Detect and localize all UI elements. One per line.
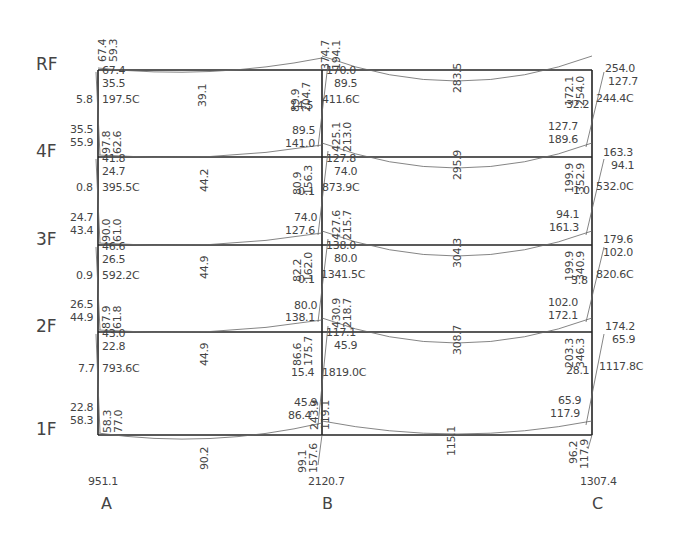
moment-value: 197.5C <box>102 94 139 105</box>
moment-value: 138.0 <box>326 240 356 251</box>
moment-value: 141.0 <box>285 138 315 149</box>
moment-value: 80.0 <box>294 300 317 311</box>
moment-value: 127.8 <box>326 153 356 164</box>
moment-value: 0.1 <box>298 186 315 197</box>
moment-value: 254.0 <box>605 63 635 74</box>
moment-value: 26.5 <box>102 254 125 265</box>
moment-value: 175.7 <box>303 336 314 366</box>
moment-value: 94.1 <box>556 209 579 220</box>
moment-value: 44.9 <box>199 343 210 366</box>
frame-moment-diagram: 67.459.367.435.55.8197.5C39.189.9204.737… <box>0 0 681 539</box>
moment-value: 35.5 <box>70 124 93 135</box>
moment-value: 820.6C <box>596 269 633 280</box>
moment-value: 161.3 <box>549 222 579 233</box>
moment-value: 102.0 <box>548 297 578 308</box>
moment-value: 119.1 <box>320 400 331 430</box>
moment-value: 127.6 <box>285 225 315 236</box>
moment-value: 7.7 <box>78 363 95 374</box>
moment-value: 58.3 <box>70 415 93 426</box>
moment-value: 59.3 <box>108 39 119 62</box>
column-axis-B: B <box>322 496 333 512</box>
moment-value: 41.8 <box>102 153 125 164</box>
column-moment-line <box>586 247 604 322</box>
moment-value: 295.9 <box>452 150 463 180</box>
moment-value: 46.6 <box>102 241 125 252</box>
column-axis-A: A <box>101 496 112 512</box>
moment-value: 43.4 <box>70 225 93 236</box>
moment-value: 873.9C <box>322 182 359 193</box>
moment-value: 115.1 <box>446 426 457 456</box>
moment-value: 61.0 <box>112 219 123 242</box>
moment-value: 411.6C <box>322 94 359 105</box>
moment-value: 74.0 <box>334 166 357 177</box>
moment-value: 89.5 <box>334 78 357 89</box>
column-moment-line <box>586 159 604 235</box>
moment-value: 3.8 <box>571 275 588 286</box>
moment-value: 94.1 <box>611 160 634 171</box>
moment-value: 15.4 <box>291 367 314 378</box>
moment-value: 74.0 <box>294 212 317 223</box>
moment-value: 0.8 <box>76 182 93 193</box>
base-reaction-B: 2120.7 <box>308 476 345 487</box>
moment-value: 22.8 <box>70 402 93 413</box>
moment-value: 89.5 <box>292 125 315 136</box>
moment-value: 117.1 <box>326 327 356 338</box>
moment-value: 45.9 <box>334 340 357 351</box>
moment-value: 117.9 <box>550 408 580 419</box>
moment-value: 32.2 <box>566 99 589 110</box>
moment-value: 1.0 <box>573 185 590 196</box>
moment-value: 24.7 <box>102 166 125 177</box>
moment-value: 5.8 <box>76 94 93 105</box>
floor-label-2F: 2F <box>36 318 57 335</box>
moment-value: 244.4C <box>596 93 633 104</box>
moment-value: 24.7 <box>70 212 93 223</box>
moment-value: 215.7 <box>342 210 353 240</box>
moment-value: 55.9 <box>70 137 93 148</box>
moment-value: 138.1 <box>285 312 315 323</box>
moment-value: 117.9 <box>579 439 590 469</box>
moment-value: 172.1 <box>548 310 578 321</box>
moment-value: 80.0 <box>334 253 357 264</box>
moment-value: 0.9 <box>76 270 93 281</box>
moment-value: 793.6C <box>102 363 139 374</box>
moment-value: 1819.0C <box>322 367 366 378</box>
moment-value: 65.9 <box>558 395 581 406</box>
moment-value: 0.1 <box>298 274 315 285</box>
moment-value: 1341.5C <box>321 269 365 280</box>
moment-value: 170.0 <box>326 65 356 76</box>
moment-value: 127.7 <box>548 121 578 132</box>
moment-value: 163.3 <box>603 147 633 158</box>
moment-value: 532.0C <box>596 181 633 192</box>
floor-label-4F: 4F <box>36 143 57 160</box>
moment-value: 90.2 <box>199 447 210 470</box>
moment-value: 592.2C <box>102 270 139 281</box>
moment-value: 127.7 <box>608 76 638 87</box>
moment-curve <box>98 423 322 439</box>
floor-label-3F: 3F <box>36 231 57 248</box>
moment-value: 189.6 <box>548 134 578 145</box>
moment-value: 39.1 <box>197 84 208 107</box>
moment-value: 304.3 <box>452 238 463 268</box>
moment-value: 218.7 <box>342 298 353 328</box>
moment-value: 44.2 <box>199 169 210 192</box>
moment-value: 77.0 <box>113 410 124 433</box>
column-moment-line <box>586 334 604 425</box>
moment-value: 157.6 <box>308 443 319 473</box>
moment-value: 62.6 <box>112 131 123 154</box>
moment-value: 283.5 <box>452 63 463 93</box>
floor-label-RF: RF <box>36 56 58 73</box>
moment-value: 179.6 <box>603 234 633 245</box>
moment-value: 308.7 <box>452 325 463 355</box>
moment-value: 14.5 <box>290 100 313 111</box>
moment-value: 174.2 <box>605 321 635 332</box>
moment-value: 26.5 <box>70 299 93 310</box>
base-reaction-A: 951.1 <box>88 476 118 487</box>
moment-value: 44.9 <box>199 256 210 279</box>
floor-label-1F: 1F <box>36 421 57 438</box>
moment-value: 67.4 <box>102 65 125 76</box>
moment-value: 395.5C <box>102 182 139 193</box>
base-reaction-C: 1307.4 <box>580 476 617 487</box>
moment-value: 43.0 <box>102 328 125 339</box>
moment-value: 28.1 <box>566 365 589 376</box>
column-axis-C: C <box>592 496 603 512</box>
